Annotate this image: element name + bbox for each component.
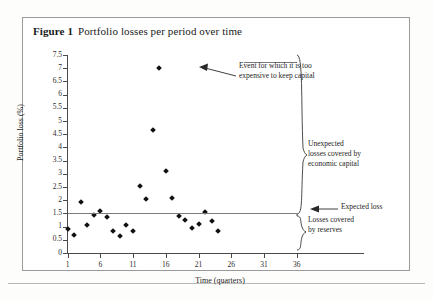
- expected-loss-callout: Expected loss: [341, 202, 421, 212]
- unexpected-callout-line-3: economic capital: [308, 159, 404, 169]
- unexpected-callout-line-2: losses covered by: [308, 149, 404, 159]
- figure-root: Figure 1Portfolio losses per period over…: [0, 0, 433, 300]
- outlier-arrow-icon: [199, 64, 236, 77]
- unexpected-losses-callout: Unexpected losses covered by economic ca…: [308, 139, 404, 169]
- reserves-callout-line-1: Losses covered: [308, 215, 398, 225]
- outlier-callout-line-1: Event for which it is too: [239, 61, 359, 71]
- expected-loss-arrow-icon: [310, 206, 338, 213]
- outlier-callout-line-2: expensive to keep capital: [239, 71, 359, 81]
- reserves-callout: Losses covered by reserves: [308, 215, 398, 235]
- outlier-callout: Event for which it is too expensive to k…: [239, 61, 359, 81]
- reserves-callout-line-2: by reserves: [308, 225, 398, 235]
- unexpected-callout-line-1: Unexpected: [308, 139, 404, 149]
- plot-area: 00.511.522.533.544.555.566.577.5 1611162…: [0, 0, 433, 300]
- reserves-brace-icon: [297, 216, 306, 250]
- expected-loss-callout-line-1: Expected loss: [341, 202, 421, 212]
